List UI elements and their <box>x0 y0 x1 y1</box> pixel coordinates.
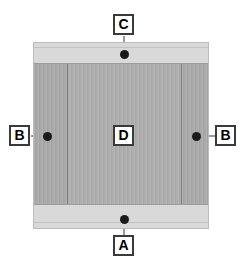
marker-dot-b-left <box>43 132 52 141</box>
callout-label-a[interactable]: A <box>113 235 134 256</box>
callout-label-b-right[interactable]: B <box>215 125 236 146</box>
marker-dot-c <box>120 50 129 59</box>
top-band-edge <box>34 47 208 48</box>
callout-label-d[interactable]: D <box>113 125 134 146</box>
core-divider-right <box>181 64 182 204</box>
diagram-canvas: C B B D A <box>0 0 245 269</box>
callout-label-c[interactable]: C <box>113 14 134 35</box>
marker-dot-b-right <box>192 132 201 141</box>
callout-label-b-left[interactable]: B <box>9 125 30 146</box>
core-divider-left <box>67 64 68 204</box>
marker-dot-a <box>120 215 129 224</box>
